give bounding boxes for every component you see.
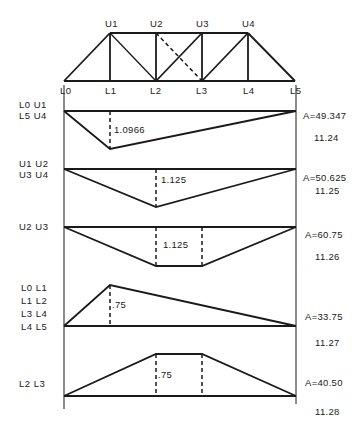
member-label: L0 U1 xyxy=(19,99,47,110)
truss-influence-diagram: U1 U2 U3 U4 L0 L1 L2 L3 L4 L5 L0 U1 L5 U… xyxy=(0,0,364,436)
member-u1-l2 xyxy=(110,33,156,81)
influence-line-11-27: L0 L1 L1 L2 L3 L4 L4 L5 .75 A=33.75 11.2… xyxy=(21,282,343,348)
influence-line-11-28: L2 L3 .75 A=40.50 11.28 xyxy=(19,354,343,417)
member-l0-u1 xyxy=(64,33,110,81)
member-label: L3 L4 xyxy=(21,308,47,319)
influence-shape xyxy=(64,285,296,326)
member-label: L0 L1 xyxy=(21,282,47,293)
area-value: A=50.625 xyxy=(303,172,346,183)
node-label-u4: U4 xyxy=(242,18,255,29)
member-label: L2 L3 xyxy=(19,378,45,389)
ordinate-value: 1.125 xyxy=(163,239,188,250)
influence-line-11-24: L0 U1 L5 U4 1.0966 A=49.347 11.24 xyxy=(19,99,346,149)
area-value: A=49.347 xyxy=(303,110,346,121)
node-label-l0: L0 xyxy=(60,85,72,96)
node-label-l1: L1 xyxy=(105,85,117,96)
figure-number: 11.27 xyxy=(315,337,340,348)
member-label: L1 L2 xyxy=(21,295,47,306)
node-label-l3: L3 xyxy=(196,85,208,96)
member-label: L4 L5 xyxy=(21,321,47,332)
ordinate-value: 1.0966 xyxy=(114,124,145,135)
ordinate-value: 1.125 xyxy=(161,174,186,185)
figure-number: 11.24 xyxy=(314,132,339,143)
member-u4-l5 xyxy=(248,33,295,81)
area-value: A=33.75 xyxy=(305,311,343,322)
influence-shape xyxy=(64,354,296,396)
truss: U1 U2 U3 U4 L0 L1 L2 L3 L4 L5 xyxy=(60,18,302,96)
ordinate-value: .75 xyxy=(112,299,126,310)
node-label-l2: L2 xyxy=(150,85,162,96)
member-label: L5 U4 xyxy=(19,110,47,121)
node-label-l4: L4 xyxy=(243,85,255,96)
node-label-u2: U2 xyxy=(150,18,163,29)
figure-number: 11.28 xyxy=(315,406,340,417)
figure-number: 11.26 xyxy=(315,251,340,262)
member-label: U2 U3 xyxy=(19,221,48,232)
ordinate-value: .75 xyxy=(158,369,172,380)
member-l3-u4 xyxy=(202,33,248,81)
influence-shape xyxy=(64,111,296,149)
member-label: U1 U2 xyxy=(19,158,48,169)
area-value: A=60.75 xyxy=(305,229,343,240)
node-label-u3: U3 xyxy=(196,18,209,29)
area-value: A=40.50 xyxy=(305,377,343,388)
figure-number: 11.25 xyxy=(315,185,340,196)
influence-line-11-26: U2 U3 1.125 A=60.75 11.26 xyxy=(19,221,343,266)
member-label: U3 U4 xyxy=(19,169,48,180)
influence-line-11-25: U1 U2 U3 U4 1.125 A=50.625 11.25 xyxy=(19,158,346,207)
node-label-u1: U1 xyxy=(105,18,118,29)
